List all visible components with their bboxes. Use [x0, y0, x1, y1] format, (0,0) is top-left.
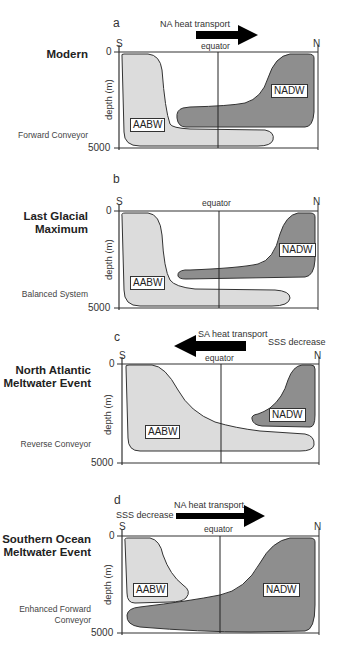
depth-tick-0: 0	[109, 530, 115, 541]
circulation-mode-line-2: Conveyor	[19, 615, 91, 626]
panel-c-graphic	[0, 320, 342, 485]
north-label: N	[313, 38, 320, 49]
depth-axis-label: depth (m)	[103, 239, 114, 280]
south-label: S	[116, 38, 123, 49]
scenario-title: Southern Ocean Meltwater Event	[2, 533, 91, 559]
nadw-label: NADW	[279, 243, 316, 257]
circulation-mode-label: Forward Conveyor	[18, 130, 88, 141]
north-label: N	[314, 521, 321, 532]
panel-c-north-atlantic-meltwater: c SA heat transport SSS decrease S N equ…	[0, 320, 342, 485]
aabw-water-mass	[122, 54, 274, 146]
north-label: N	[313, 196, 320, 207]
aabw-label: AABW	[130, 276, 165, 290]
scenario-title-line-1: Southern Ocean	[2, 533, 91, 546]
depth-tick-5000: 5000	[88, 142, 110, 153]
scenario-title-line-1: North Atlantic	[3, 364, 91, 377]
depth-tick-0: 0	[109, 358, 115, 369]
depth-tick-5000: 5000	[91, 627, 113, 638]
scenario-title-line-1: Last Glacial	[23, 210, 88, 223]
panel-a-modern: a NA heat transport S N equator 0 5000 d…	[0, 0, 342, 160]
scenario-title: Modern	[46, 48, 88, 61]
depth-axis-label: depth (m)	[103, 79, 114, 120]
depth-tick-5000: 5000	[91, 457, 113, 468]
depth-tick-0: 0	[106, 205, 112, 216]
nadw-label: NADW	[269, 408, 306, 422]
circulation-mode-label: Enhanced Forward Conveyor	[19, 604, 91, 626]
aabw-label: AABW	[133, 583, 168, 597]
depth-tick-5000: 5000	[88, 302, 110, 313]
scenario-title-line-2: Meltwater Event	[2, 546, 91, 559]
nadw-label: NADW	[263, 583, 300, 597]
scenario-title: North Atlantic Meltwater Event	[3, 364, 91, 390]
circulation-mode-line-1: Enhanced Forward	[19, 604, 91, 615]
aabw-label: AABW	[130, 118, 165, 132]
panel-d-southern-ocean-meltwater: d NA heat transport SSS decrease S N equ…	[0, 485, 342, 649]
panel-b-last-glacial-maximum: b S N equator 0 5000 depth (m) Last Glac…	[0, 160, 342, 320]
scenario-title-line-2: Maximum	[23, 223, 88, 236]
aabw-water-mass	[122, 213, 290, 306]
scenario-title-line-2: Meltwater Event	[3, 377, 91, 390]
circulation-mode-label: Balanced System	[22, 289, 88, 300]
south-label: S	[119, 350, 126, 361]
north-label: N	[314, 350, 321, 361]
south-label: S	[116, 196, 123, 207]
nadw-label: NADW	[271, 84, 308, 98]
equator-label: equator	[204, 524, 233, 534]
depth-tick-0: 0	[106, 46, 112, 57]
depth-axis-label: depth (m)	[102, 564, 113, 605]
aabw-label: AABW	[145, 425, 180, 439]
equator-label: equator	[202, 198, 231, 208]
scenario-title: Last Glacial Maximum	[23, 210, 88, 236]
south-label: S	[119, 521, 126, 532]
circulation-mode-label: Reverse Conveyor	[21, 439, 91, 450]
equator-label: equator	[205, 353, 234, 363]
depth-axis-label: depth (m)	[102, 394, 113, 435]
equator-label: equator	[201, 41, 230, 51]
